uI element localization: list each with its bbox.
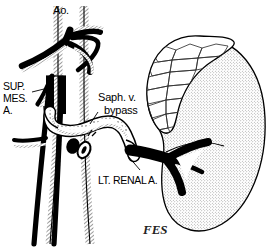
artist-signature: FES bbox=[142, 222, 168, 237]
label-saph-v-line1: Saph. v. bbox=[98, 91, 136, 103]
label-sup-mes-a-line1: SUP. bbox=[3, 80, 25, 92]
label-saph-v-line2: bypass bbox=[104, 104, 138, 116]
label-sup-mes-a-line2: MES. bbox=[3, 92, 27, 104]
anatomy-drawing-canvas: Ao. SUP. MES. A. Saph. v. bypass LT. REN… bbox=[0, 0, 277, 248]
label-aorta: Ao. bbox=[53, 4, 69, 16]
label-sup-mes-a-line3: A. bbox=[3, 104, 12, 116]
medical-illustration-figure: Ao. SUP. MES. A. Saph. v. bypass LT. REN… bbox=[0, 0, 277, 248]
label-lt-renal-a: LT. RENAL A. bbox=[98, 174, 157, 186]
